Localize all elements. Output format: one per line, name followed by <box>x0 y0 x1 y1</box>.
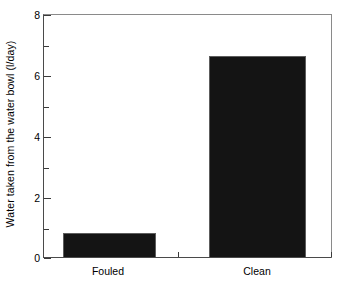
plot-area: 8 6 4 2 0 <box>43 14 332 258</box>
y-tick-label-4: 4 <box>34 132 40 143</box>
y-tick-label-2: 2 <box>34 193 40 204</box>
y-tick-mark-2 <box>44 198 51 199</box>
x-tick-right <box>331 252 332 257</box>
y-tick-label-6: 6 <box>34 71 40 82</box>
y-axis-title: Water taken from the water bowl (l/day) <box>4 6 16 262</box>
y-tick-label-8: 8 <box>34 10 40 21</box>
y-tick-mark-1 <box>44 229 49 230</box>
bar-clean <box>209 56 306 257</box>
bar-chart-figure: Water taken from the water bowl (l/day) … <box>0 0 343 288</box>
y-tick-mark-0 <box>44 258 51 259</box>
y-axis-title-container: Water taken from the water bowl (l/day) <box>0 0 20 288</box>
x-tick-divider <box>178 252 179 257</box>
y-tick-mark-3 <box>44 168 49 169</box>
bar-fouled <box>63 233 156 257</box>
y-tick-mark-5 <box>44 107 49 108</box>
y-tick-mark-8 <box>44 15 51 16</box>
y-tick-mark-7 <box>44 46 49 47</box>
y-tick-mark-6 <box>44 76 51 77</box>
x-category-label-clean: Clean <box>243 266 270 277</box>
x-category-label-fouled: Fouled <box>92 266 124 277</box>
y-tick-label-0: 0 <box>34 253 40 264</box>
y-tick-mark-4 <box>44 137 51 138</box>
